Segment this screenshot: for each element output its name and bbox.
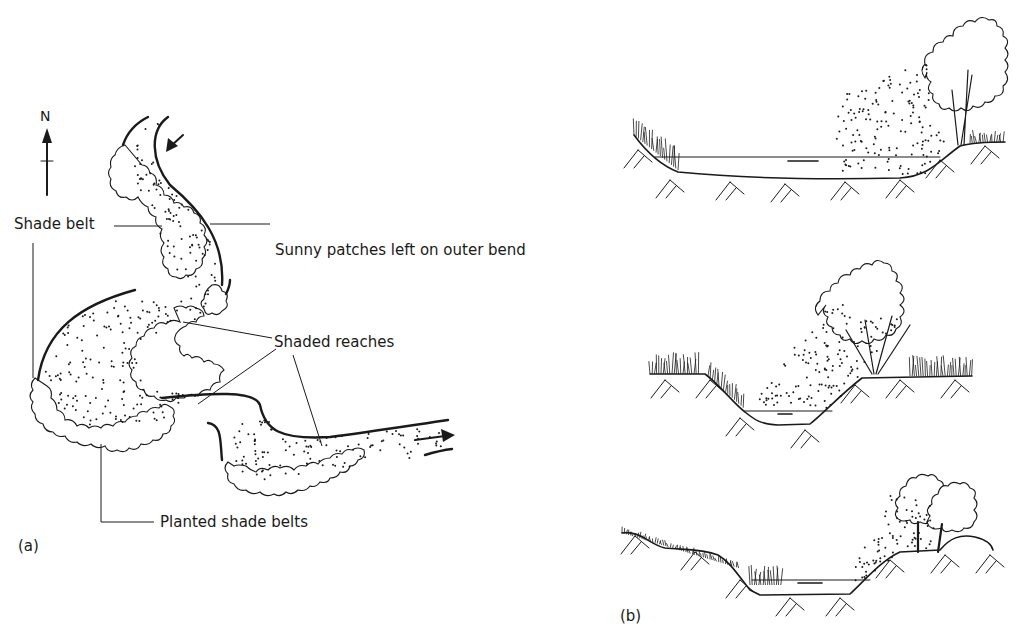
cross-section-drawings xyxy=(600,0,1020,639)
river-plan-drawing xyxy=(0,0,520,639)
panel-tag-b: (b) xyxy=(620,607,641,625)
inner-bend-canopy xyxy=(129,306,224,402)
river-banks xyxy=(38,117,452,460)
panel-b-cross-sections: (b) xyxy=(600,0,1020,639)
cross-section-1 xyxy=(624,17,1008,202)
north-arrow-icon xyxy=(41,128,53,195)
label-shaded-reaches: Shaded reaches xyxy=(274,333,394,351)
label-planted-shade-belts: Planted shade belts xyxy=(160,513,308,531)
flow-arrow-out-icon xyxy=(415,429,455,442)
flow-arrow-in-icon xyxy=(166,135,183,152)
label-shade-belt: Shade belt xyxy=(14,215,95,233)
panel-tag-a: (a) xyxy=(18,537,39,555)
panel-a-plan-view: Shade belt Sunny patches left on outer b… xyxy=(0,0,520,639)
label-sunny-patches: Sunny patches left on outer bend xyxy=(275,241,526,259)
compass-label: N xyxy=(40,108,50,124)
cross-section-3 xyxy=(621,474,1004,616)
cross-section-2 xyxy=(649,260,973,448)
